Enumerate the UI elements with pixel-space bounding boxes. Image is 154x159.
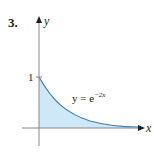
graph: 3. y x 1 y = e−2x bbox=[0, 0, 154, 159]
curve-label-base: y = e bbox=[72, 92, 94, 104]
curve-label: y = e−2x bbox=[72, 91, 106, 104]
y-axis-arrow-icon bbox=[36, 16, 42, 23]
problem-number: 3. bbox=[8, 15, 18, 30]
x-axis-label: x bbox=[145, 121, 152, 135]
curve-label-exponent: −2x bbox=[94, 91, 106, 99]
y-axis-label: y bbox=[43, 14, 50, 28]
x-axis-arrow-icon bbox=[138, 125, 145, 131]
y-tick-label: 1 bbox=[28, 71, 34, 83]
